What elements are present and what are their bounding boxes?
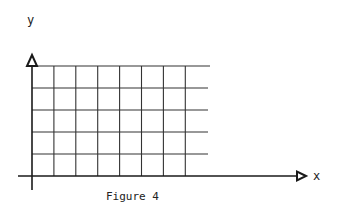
grid xyxy=(32,66,210,176)
x-axis-arrowhead-icon xyxy=(297,172,306,181)
y-axis-label: y xyxy=(27,13,34,27)
x-axis-label: x xyxy=(313,169,320,183)
y-axis-arrowhead-icon xyxy=(27,55,37,66)
figure-caption: Figure 4 xyxy=(106,190,159,203)
figure-4-grid-diagram: y x Figure 4 xyxy=(0,0,337,215)
